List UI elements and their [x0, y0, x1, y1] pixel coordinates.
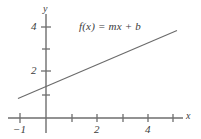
x-axis-label: x	[186, 111, 190, 121]
y-axis-label: y	[43, 4, 47, 14]
x-tick-label-4: 4	[145, 124, 151, 135]
y-tick-label-2: 2	[31, 65, 37, 76]
x-tick-label--1: −1	[13, 124, 26, 135]
y-tick-label-4: 4	[31, 21, 37, 32]
x-tick-label-2: 2	[94, 124, 100, 135]
linear-function-figure: −1 2 4 4 2 y x f(x) = mx + b	[0, 0, 201, 139]
function-equation-label: f(x) = mx + b	[79, 21, 141, 32]
function-line	[18, 31, 177, 99]
